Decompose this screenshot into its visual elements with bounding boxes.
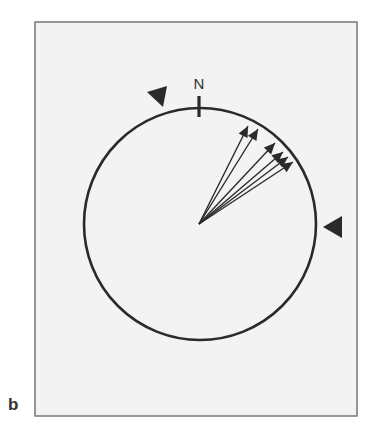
panel-label: b: [8, 395, 18, 414]
north-label: N: [194, 75, 205, 92]
orientation-diagram: b N: [0, 0, 371, 440]
